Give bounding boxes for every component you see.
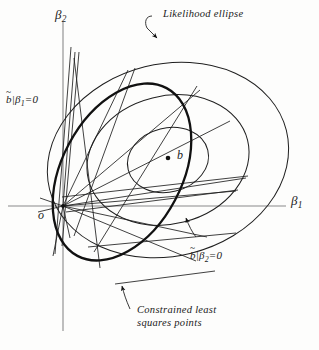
leader-constrained-points xyxy=(122,286,130,309)
figure-root: β2 β1 o b Likelihood ellipse Constrained… xyxy=(0,0,319,350)
constraint-beta1-equals: =0 xyxy=(25,93,38,105)
y-axis-label-subscript: 2 xyxy=(62,14,67,24)
y-axis-label: β2 xyxy=(55,8,67,25)
figure-canvas xyxy=(0,0,319,350)
tangent-horizontal-bottom xyxy=(115,271,215,284)
chord-oblique-lower xyxy=(74,68,135,236)
x-axis-label-subscript: 1 xyxy=(298,200,303,210)
constraint-beta2-equals: =0 xyxy=(209,249,222,261)
origin-point-group xyxy=(61,204,65,208)
point-b-label: b xyxy=(177,149,183,163)
constraint-beta2-tilde-mark: ~ xyxy=(190,243,195,254)
origin-ray-4 xyxy=(63,206,196,261)
x-axis-label-beta: β xyxy=(291,193,298,208)
tangent-horizontal-lower xyxy=(88,233,236,247)
annotation-likelihood-ellipse: Likelihood ellipse xyxy=(163,8,243,20)
chord-oblique-upper xyxy=(94,86,197,252)
x-axis-label: β1 xyxy=(291,194,303,211)
annotation-constrained-points: Constrained least squares points xyxy=(137,303,216,329)
center-point-group xyxy=(166,156,171,161)
tangent-vertical-inner xyxy=(74,58,100,268)
point-origin-marker xyxy=(61,204,65,208)
constraint-beta1-tilde-mark: ~ xyxy=(6,87,11,98)
callout-leaders-group xyxy=(122,16,196,309)
annotation-constrained-points-line1: Constrained least xyxy=(137,303,216,316)
point-b-marker xyxy=(166,156,171,161)
leader-likelihood-ellipse xyxy=(146,16,157,38)
annotation-constrained-points-line2: squares points xyxy=(137,316,216,329)
annotation-constraint-beta2: ~b|β2=0 xyxy=(190,249,222,264)
y-axis-label-beta: β xyxy=(55,7,62,22)
constraint-beta1-tilde-b: ~b xyxy=(6,93,12,106)
origin-label: o xyxy=(38,209,44,223)
constraint-beta2-tilde-b: ~b xyxy=(190,249,196,262)
annotation-constraint-beta1: ~b|β1=0 xyxy=(6,93,38,108)
